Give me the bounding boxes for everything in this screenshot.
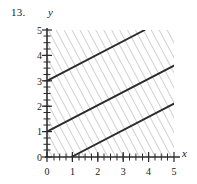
- y-tick-label-0: 0: [32, 152, 42, 163]
- plot-canvas: [0, 0, 197, 184]
- x-axis-label: x: [182, 147, 187, 159]
- y-tick-label-2: 2: [32, 101, 42, 112]
- x-tick-label-1: 1: [66, 166, 78, 177]
- y-tick-label-1: 1: [32, 126, 42, 137]
- y-tick-label-3: 3: [32, 76, 42, 87]
- x-tick-label-2: 2: [92, 166, 104, 177]
- x-tick-label-3: 3: [117, 166, 129, 177]
- x-tick-label-5: 5: [168, 166, 180, 177]
- y-axis-label: y: [48, 6, 53, 18]
- x-tick-label-4: 4: [143, 166, 155, 177]
- graph-figure: 13. y x: [0, 0, 197, 184]
- shaded-region: [47, 30, 174, 157]
- y-tick-label-4: 4: [32, 50, 42, 61]
- y-tick-label-5: 5: [32, 25, 42, 36]
- problem-number: 13.: [11, 6, 25, 18]
- x-tick-label-0: 0: [41, 166, 53, 177]
